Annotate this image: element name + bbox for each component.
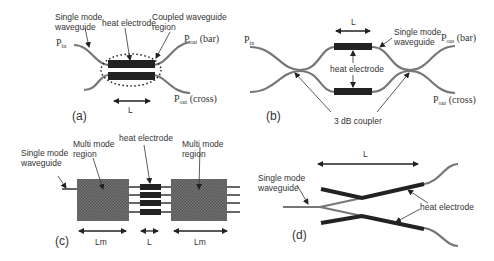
pointer-arrow [408, 190, 428, 203]
label-pout-bar: Pout (bar) [184, 33, 219, 45]
label-single-mode: Single mode [21, 148, 69, 158]
label-lm-right: Lm [194, 237, 206, 247]
heat-electrode-top [108, 60, 155, 68]
panel-label-b: (b) [266, 109, 281, 123]
label-coupled: Coupled waveguide [152, 12, 227, 22]
label-heat-electrode: heat electrode [330, 64, 384, 74]
pointer-arrow [380, 38, 392, 47]
label-single-mode: Single mode [55, 12, 103, 22]
label-length: L [351, 17, 356, 27]
label-pout-cross: Pout (cross) [433, 94, 476, 106]
heat-electrode-bottom [108, 72, 155, 80]
label-heat-electrode: heat electrode [102, 18, 156, 28]
waveguide-branch-bottom [320, 207, 458, 246]
multi-mode-region-left [77, 179, 129, 221]
label-waveguide: waveguide [20, 158, 62, 168]
label-pin: Pin [56, 37, 66, 49]
pointer-arrow [396, 209, 420, 222]
label-multi-mode-left: Multi mode [73, 139, 115, 149]
label-waveguide: waveguide [393, 37, 435, 47]
panel-label-d: (d) [292, 228, 307, 242]
label-single-mode: Single mode [394, 27, 442, 37]
label-heat-electrode: heat electrode [119, 133, 173, 143]
label-region-left: region [73, 149, 97, 159]
pointer-arrow [295, 73, 331, 112]
heat-electrode-bottom [334, 88, 372, 95]
heat-electrode-array [140, 184, 161, 215]
label-lm-left: Lm [95, 237, 107, 247]
waveguide-branch-top [320, 164, 458, 207]
label-pin: Pin [244, 34, 254, 46]
panel-a: Single mode waveguide heat electrode Cou… [54, 12, 227, 123]
label-pout-cross: Pout (cross) [174, 93, 217, 105]
label-region-right: region [182, 149, 206, 159]
panel-label-c: (c) [55, 234, 69, 248]
label-pout-bar: Pout (bar) [441, 32, 476, 44]
waveguide-switch-figure: Single mode waveguide heat electrode Cou… [0, 0, 494, 261]
label-length: L [128, 105, 133, 115]
label-length: L [147, 237, 152, 247]
pointer-arrow [125, 28, 130, 60]
pointer-arrow [58, 176, 66, 188]
pointer-arrow [144, 145, 150, 183]
label-single-mode: Single mode [258, 173, 306, 183]
panel-b: Pin L Single mode waveguide Pout (bar) h… [244, 17, 476, 126]
panel-c: Single mode waveguide Multi mode region … [20, 133, 240, 248]
panel-label-a: (a) [72, 109, 87, 123]
label-waveguide: waveguide [257, 183, 299, 193]
coupled-region-outline [101, 54, 161, 86]
pointer-arrow [156, 32, 170, 58]
label-region: region [152, 22, 176, 32]
label-waveguide: waveguide [54, 22, 96, 32]
label-multi-mode-right: Multi mode [182, 139, 224, 149]
panel-d: L Single mode waveguide heat electrode (… [257, 149, 474, 246]
heat-electrode-lower [321, 216, 424, 229]
heat-electrode-upper [321, 184, 424, 198]
label-heat-electrode: heat electrode [420, 202, 474, 212]
heat-electrode-top [334, 43, 372, 50]
label-length: L [363, 149, 368, 159]
pointer-arrow [297, 185, 308, 204]
label-coupler: 3 dB coupler [334, 116, 382, 126]
